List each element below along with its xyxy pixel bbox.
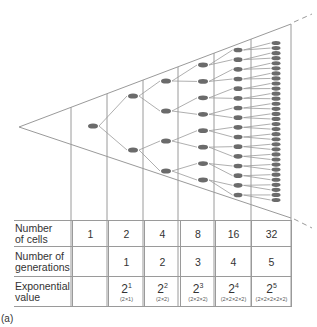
bacterial-cell: [234, 173, 243, 178]
figure-caption: (a): [1, 313, 13, 324]
row-exponential-value: Exponentialvalue 21(2×1) 22(2×2) 23(2×2×…: [14, 277, 292, 307]
bacterial-cell: [272, 51, 281, 55]
bacterial-cell: [272, 152, 281, 156]
bacterial-cell: [88, 123, 98, 128]
row-label: Exponentialvalue: [14, 277, 73, 307]
bacterial-cell: [272, 122, 281, 126]
bacterial-cell: [272, 76, 281, 80]
bacterial-cell: [198, 128, 208, 133]
bacterial-cell: [272, 92, 281, 96]
bacterial-cell: [272, 162, 281, 166]
bacterial-cell: [234, 77, 243, 82]
bacterial-cell: [128, 93, 138, 98]
bacterial-cell: [272, 132, 281, 136]
bacterial-cell: [198, 145, 208, 150]
bacterial-cell: [161, 138, 171, 143]
row-label: Number ofgenerations: [14, 247, 73, 277]
bacterial-cell: [272, 97, 281, 101]
bacterial-cell: [272, 147, 281, 151]
bacterial-cell: [234, 193, 243, 198]
bacterial-cell: [198, 63, 208, 68]
bacterial-cell: [234, 135, 243, 140]
bacterial-cell: [234, 125, 243, 130]
cell-count: 2: [109, 221, 145, 247]
bacterial-cell: [198, 112, 208, 117]
row-label: Numberof cells: [14, 221, 73, 247]
bacterial-cell: [234, 96, 243, 101]
bacterial-cell: [272, 66, 281, 70]
bacterial-cell: [272, 157, 281, 161]
row-number-of-generations: Number ofgenerations 1 2 3 4 5: [14, 247, 292, 277]
bacterial-cell: [198, 178, 208, 183]
cell-count: 16: [216, 221, 252, 247]
bacterial-cell: [234, 48, 243, 53]
bacterial-cell: [198, 161, 208, 166]
bacterial-cell: [234, 183, 243, 188]
cell-count: 8: [181, 221, 216, 247]
bacterial-cell: [234, 144, 243, 149]
bacterial-cell: [234, 86, 243, 91]
bacterial-cell: [272, 107, 281, 111]
bacterial-cell: [272, 188, 281, 192]
exponential-value: 22(2×2): [145, 277, 181, 307]
triangle-outline: [19, 14, 312, 228]
bacterial-cell: [161, 168, 171, 173]
exponential-value: 21(2×1): [109, 277, 145, 307]
exponential-value: [73, 277, 109, 307]
bacterial-cell: [234, 106, 243, 111]
bacterial-cell: [272, 86, 281, 90]
cell-count: 32: [252, 221, 292, 247]
bacterial-cell: [272, 117, 281, 121]
bacterial-cell: [234, 164, 243, 169]
bacterial-cell: [272, 56, 281, 60]
exponential-value: 25(2×2×2×2×2): [252, 277, 292, 307]
bacterial-cell: [272, 142, 281, 146]
bacterial-cell: [272, 127, 281, 131]
cell-count: 1: [73, 221, 109, 247]
bacterial-cell: [234, 115, 243, 120]
generation-count: 4: [216, 247, 252, 277]
bacterial-cell: [272, 61, 281, 65]
cell-count: 4: [145, 221, 181, 247]
bacterial-cell: [272, 193, 281, 197]
bacterial-cell: [272, 173, 281, 177]
bacterial-cell: [234, 57, 243, 62]
bacterial-cell: [272, 112, 281, 116]
generation-count: 2: [145, 247, 181, 277]
bacterial-cell: [234, 154, 243, 159]
bacterial-cell: [161, 78, 171, 83]
bacterial-cell: [234, 67, 243, 72]
bacterial-cell: [272, 81, 281, 85]
bacterial-cell: [198, 79, 208, 84]
bacterial-cell: [198, 95, 208, 100]
generation-count: 3: [181, 247, 216, 277]
growth-table: Numberof cells 1 2 4 8 16 32 Number ofge…: [14, 220, 292, 307]
bacterial-cell: [128, 147, 138, 152]
bacterial-cell: [272, 71, 281, 75]
division-branches: [99, 43, 271, 200]
bacterial-cell: [272, 46, 281, 50]
bacterial-cell: [272, 137, 281, 141]
bacterial-cell: [272, 178, 281, 182]
row-number-of-cells: Numberof cells 1 2 4 8 16 32: [14, 221, 292, 247]
bacterial-cell: [272, 168, 281, 172]
bacterial-cell: [272, 183, 281, 187]
bacterial-cells: [88, 41, 281, 202]
generation-count: 1: [109, 247, 145, 277]
bacterial-cell: [272, 102, 281, 106]
generation-count: 5: [252, 247, 292, 277]
exponential-value: 24(2×2×2×2): [216, 277, 252, 307]
bacterial-cell: [161, 108, 171, 113]
bacterial-cell: [272, 41, 281, 45]
bacterial-cell: [272, 198, 281, 202]
generation-count: [73, 247, 109, 277]
exponential-value: 23(2×2×2): [181, 277, 216, 307]
